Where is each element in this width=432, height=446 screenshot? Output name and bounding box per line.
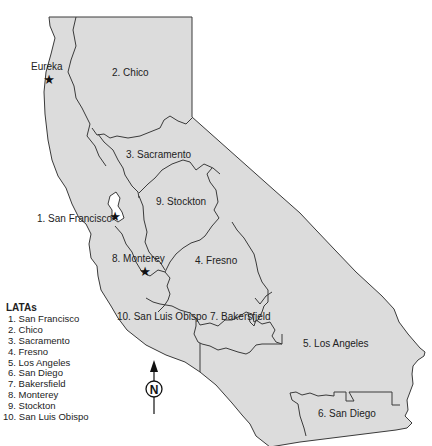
label-chico: 2. Chico: [112, 67, 149, 78]
label-los-angeles: 5. Los Angeles: [303, 338, 369, 349]
legend: LATAs 1. San Francisco 2. Chico 3. Sacra…: [6, 303, 89, 423]
compass-label: N: [150, 383, 159, 397]
california-outline: [44, 17, 425, 446]
label-san-diego: 6. San Diego: [318, 408, 376, 419]
label-bakersfield: 7. Bakersfield: [210, 311, 271, 322]
star-icon: ★: [139, 264, 151, 279]
label-monterey: 8. Monterey: [112, 253, 165, 264]
legend-item: 3. Sacramento: [6, 336, 89, 347]
label-stockton: 9. Stockton: [156, 196, 206, 207]
label-san-luis-obispo: 10. San Luis Obispo: [117, 311, 207, 322]
label-sacramento: 3. Sacramento: [126, 149, 191, 160]
star-icon: ★: [43, 72, 55, 87]
label-eureka: Eureka: [31, 61, 63, 72]
north-arrow-icon: N: [146, 360, 162, 414]
star-icon: ★: [109, 209, 121, 224]
legend-item: 10. San Luis Obispo: [3, 412, 89, 423]
legend-item: 4. Fresno: [6, 347, 89, 358]
label-san-francisco: 1. San Francisco: [37, 213, 112, 224]
label-fresno: 4. Fresno: [195, 255, 238, 266]
